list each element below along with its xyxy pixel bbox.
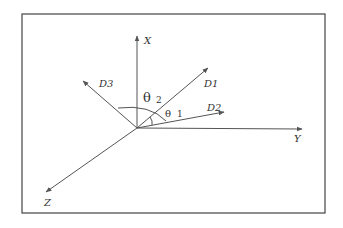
theta1-subscript: 1 xyxy=(177,109,183,119)
y-axis xyxy=(137,128,302,129)
diagram-frame xyxy=(22,14,325,213)
y-axis-label: Y xyxy=(294,133,302,144)
d2-label: D2 xyxy=(206,102,221,113)
d1-label: D1 xyxy=(203,78,218,89)
d3-label: D3 xyxy=(98,78,113,89)
z-axis-label: Z xyxy=(43,197,52,208)
theta2-symbol: θ xyxy=(143,90,151,105)
theta1-arc xyxy=(150,117,152,125)
theta2-subscript: 2 xyxy=(156,95,162,105)
x-axis-label: X xyxy=(143,35,152,46)
z-axis xyxy=(46,128,137,192)
theta1-symbol: θ xyxy=(165,108,171,119)
coordinate-diagram: X Y Z D1 D2 D3 θ 2 θ 1 xyxy=(0,0,343,228)
